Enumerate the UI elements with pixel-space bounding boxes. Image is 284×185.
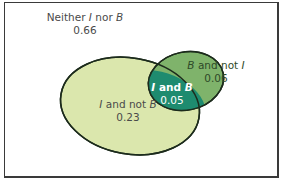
value-i-and-b: 0.05 [150, 94, 194, 107]
value-neither: 0.66 [30, 24, 140, 37]
label-var-i: I [242, 59, 245, 71]
value-i-not-b: 0.23 [88, 111, 168, 124]
label-text: and [155, 81, 184, 93]
label-text: nor [92, 11, 116, 23]
label-neither: Neither I nor B 0.66 [30, 11, 140, 37]
label-var-b: B [116, 11, 123, 23]
label-var-b: B [187, 59, 194, 71]
label-text: and not [195, 59, 242, 71]
label-text: Neither [47, 11, 89, 23]
label-var-b: B [185, 81, 193, 93]
label-text: and not [102, 98, 149, 110]
label-i-and-b: I and B 0.05 [150, 81, 194, 107]
